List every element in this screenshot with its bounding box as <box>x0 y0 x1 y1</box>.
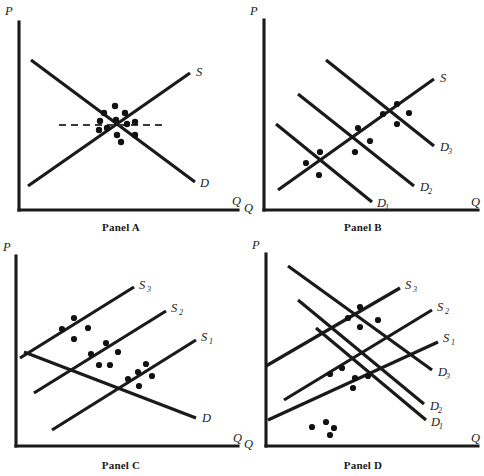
data-point <box>103 340 109 346</box>
data-point <box>101 110 107 116</box>
panel-d-supply1-subscript: 1 <box>451 338 455 347</box>
panel-b: P Q Q S D 1 D 2 D 3 <box>242 0 484 238</box>
data-point <box>309 424 315 430</box>
data-point <box>118 139 124 145</box>
data-point <box>323 419 329 425</box>
panel-a-x-axis-label: Q <box>232 194 241 208</box>
figure-root: P Q S D <box>0 0 484 476</box>
panel-c-supply2-subscript: 2 <box>179 308 183 317</box>
panel-c-supply3-label: S <box>139 278 146 292</box>
panel-c-x-axis-label: Q <box>233 431 242 445</box>
data-point <box>355 125 361 131</box>
data-point <box>104 125 110 131</box>
data-point <box>125 376 131 382</box>
data-point <box>352 375 358 381</box>
panel-d-supply2-subscript: 2 <box>445 307 449 316</box>
data-point <box>71 336 77 342</box>
panel-d-supply2-label: S <box>437 300 444 314</box>
data-point <box>96 127 102 133</box>
data-point <box>85 325 91 331</box>
panel-d-plot: P Q Q S 1 S 2 S 3 D 1 D 2 D <box>242 238 484 476</box>
panel-d-y-axis-label: P <box>251 238 260 252</box>
panel-c-supply3-subscript: 3 <box>146 285 151 294</box>
panel-b-x-axis-label: Q <box>471 195 480 209</box>
data-point <box>345 315 351 321</box>
panel-b-demand3-curve <box>326 60 434 146</box>
data-point <box>136 383 142 389</box>
data-point <box>339 365 345 371</box>
panel-c: P Q D S 1 S 2 S 3 <box>0 238 242 476</box>
data-point <box>132 119 138 125</box>
data-point <box>124 121 130 127</box>
data-point <box>357 304 363 310</box>
panel-b-demand1-curve <box>276 124 372 202</box>
data-point <box>352 149 358 155</box>
data-point <box>406 110 412 116</box>
panel-b-demand1-subscript: 1 <box>385 203 389 212</box>
data-point <box>143 361 149 367</box>
panel-d-demand2-subscript: 2 <box>438 406 442 415</box>
data-point <box>107 362 113 368</box>
data-point <box>59 326 65 332</box>
data-point <box>394 101 400 107</box>
panel-d-supply3-subscript: 3 <box>412 285 417 294</box>
data-point <box>327 371 333 377</box>
data-point <box>113 117 119 123</box>
panel-c-demand-label: D <box>201 411 211 425</box>
panel-c-supply3-curve <box>20 287 134 358</box>
panel-c-supply1-label: S <box>201 330 208 344</box>
data-point <box>97 118 103 124</box>
panel-a-y-axis-label: P <box>4 4 13 18</box>
panel-d-dot-cluster-1 <box>309 419 337 438</box>
data-point <box>132 132 138 138</box>
data-point <box>88 351 94 357</box>
panel-c-caption: Panel C <box>0 459 242 471</box>
panel-c-supply1-curve <box>52 340 196 430</box>
data-point <box>394 121 400 127</box>
data-point <box>112 103 118 109</box>
panel-a-caption: Panel A <box>0 221 242 233</box>
data-point <box>380 111 386 117</box>
panel-b-demand2-subscript: 2 <box>428 187 432 196</box>
data-point <box>375 317 381 323</box>
panel-a-demand-label: D <box>199 176 209 190</box>
panel-c-y-axis-label: P <box>2 240 11 254</box>
panel-b-supply-label: S <box>440 71 447 85</box>
panel-d-supply3-label: S <box>405 278 412 292</box>
panel-c-supply1-subscript: 1 <box>209 337 213 346</box>
data-point <box>96 362 102 368</box>
panel-d-origin-label: Q <box>244 437 253 451</box>
data-point <box>367 138 373 144</box>
panel-c-supply2-label: S <box>171 301 178 315</box>
panel-c-plot: P Q D S 1 S 2 S 3 <box>0 238 242 476</box>
panel-a: P Q S D <box>0 0 242 238</box>
panel-c-dot-cluster-3 <box>59 315 91 342</box>
panel-a-supply-label: S <box>196 65 203 79</box>
data-point <box>115 349 121 355</box>
data-point <box>114 132 120 138</box>
panel-c-dot-cluster-2 <box>88 340 121 368</box>
panel-b-demand2-curve <box>298 94 414 186</box>
panel-b-y-axis-label: P <box>249 4 258 18</box>
panel-d: P Q Q S 1 S 2 S 3 D 1 D 2 D <box>242 238 484 476</box>
data-point <box>122 110 128 116</box>
panel-b-plot: P Q Q S D 1 D 2 D 3 <box>242 0 484 238</box>
data-point <box>365 373 371 379</box>
data-point <box>350 385 356 391</box>
data-point <box>327 432 333 438</box>
panel-d-demand3-subscript: 3 <box>445 372 450 381</box>
data-point <box>357 324 363 330</box>
panel-b-caption: Panel B <box>242 221 484 233</box>
data-point <box>149 373 155 379</box>
data-point <box>316 172 322 178</box>
panel-d-x-axis-label: Q <box>471 431 480 445</box>
panel-d-supply1-label: S <box>443 331 450 345</box>
data-point <box>331 425 337 431</box>
data-point <box>135 369 141 375</box>
panel-d-caption: Panel D <box>242 459 484 471</box>
panel-b-demand3-subscript: 3 <box>447 147 452 156</box>
panel-d-demand1-subscript: 1 <box>439 422 443 431</box>
data-point <box>317 149 323 155</box>
data-point <box>71 315 77 321</box>
panel-b-origin-label: Q <box>244 201 253 215</box>
